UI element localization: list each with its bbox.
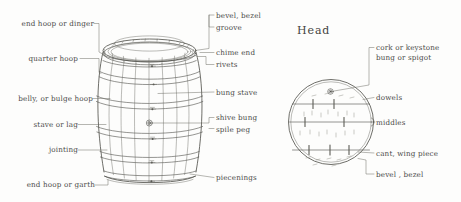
hoop-end-garth — [104, 171, 196, 181]
hoop-belly-lower — [97, 127, 203, 139]
label-end-hoop-or-garth: end hoop or garth — [2, 180, 95, 189]
label-groove: groove — [216, 23, 242, 32]
hoop-quarter-bottom — [100, 152, 199, 164]
label-jointing: jointing — [2, 145, 78, 154]
label-stave-or-lag: stave or lag — [2, 120, 78, 129]
label-cork-or-keystone-line2: bung or spigot — [376, 53, 439, 63]
head-bung-hole — [328, 89, 334, 95]
barrel-left-leaders — [78, 24, 110, 186]
label-quarter-hoop: quarter hoop — [2, 54, 78, 63]
label-belly-or-bulge-hoop: belly, or bulge hoop — [2, 94, 93, 103]
label-bung-stave: bung stave — [216, 88, 257, 97]
label-chime-end: chime end — [216, 48, 255, 57]
label-spile-peg: spile peg — [216, 125, 250, 134]
label-cork-or-keystone-line1: cork or keystone — [376, 43, 439, 53]
barrel-body — [96, 36, 202, 184]
shive-bung-mark — [146, 120, 152, 126]
head-section-title: Head — [297, 24, 330, 37]
head-disc — [289, 80, 375, 167]
label-end-hoop-or-dinger: end hoop or dinger — [2, 19, 94, 28]
label-cant-wing-piece: cant, wing piece — [376, 149, 438, 158]
hoop-quarter-top — [99, 72, 200, 85]
label-bevel-bezel-head: bevel , bezel — [376, 170, 423, 179]
label-dowels: dowels — [376, 93, 402, 102]
label-shive-bung: shive bung — [216, 113, 257, 122]
diagram-page: .s { fill:none; stroke:#55554f; stroke-w… — [0, 0, 461, 202]
label-bevel-bezel: bevel, bezel — [216, 11, 261, 20]
label-cork-or-keystone-bung-or-spigot: cork or keystone bung or spigot — [376, 43, 439, 62]
label-middles: middles — [376, 118, 406, 127]
label-piecenings: piecenings — [216, 173, 257, 182]
head-dowel-ticks — [305, 100, 349, 155]
hoop-belly-upper — [96, 96, 202, 109]
head-leaders — [334, 48, 375, 175]
label-rivets: rivets — [216, 60, 238, 69]
